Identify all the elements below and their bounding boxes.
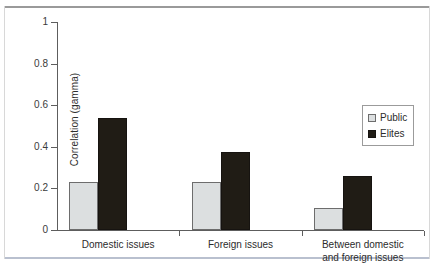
- bar-public: [314, 208, 343, 230]
- x-tick: [179, 231, 180, 236]
- y-tick-label: 1: [42, 15, 48, 28]
- page-frame-top-rule: [4, 6, 430, 8]
- bar-elites: [98, 118, 127, 230]
- legend-label-public: Public: [380, 112, 407, 123]
- elites-swatch-icon: [368, 130, 376, 138]
- legend-item-public[interactable]: Public: [368, 111, 409, 124]
- category-label-line: Between domestic: [302, 238, 424, 251]
- legend-item-elites[interactable]: Elites: [368, 127, 409, 140]
- y-tick: 0.2: [51, 188, 57, 189]
- category-label-line: Foreign issues: [179, 238, 301, 251]
- y-tick: 0.6: [51, 105, 57, 106]
- x-tick: [424, 231, 425, 236]
- category-label-line: and foreign issues: [302, 251, 424, 264]
- x-axis-line: [57, 230, 424, 231]
- bar-elites: [343, 176, 372, 230]
- chart-figure: Correlation (gamma) 00.20.40.60.81 Domes…: [0, 0, 434, 275]
- legend-label-elites: Elites: [380, 128, 404, 139]
- y-tick-label: 0.6: [34, 98, 48, 111]
- bar-public: [192, 182, 221, 230]
- y-tick: 0.4: [51, 147, 57, 148]
- y-tick-label: 0: [42, 223, 48, 236]
- page-frame-left-rule: [4, 6, 5, 259]
- category-label-line: Domestic issues: [57, 238, 179, 251]
- y-axis-title: Correlation (gamma): [69, 40, 80, 200]
- y-tick: 0: [51, 230, 57, 231]
- public-swatch-icon: [368, 114, 376, 122]
- y-tick: 0.8: [51, 64, 57, 65]
- category-label: Between domesticand foreign issues: [302, 238, 424, 264]
- page-frame-right-rule: [429, 6, 430, 259]
- y-tick-label: 0.4: [34, 140, 48, 153]
- bar-elites: [221, 152, 250, 230]
- category-label: Domestic issues: [57, 238, 179, 251]
- bar-public: [69, 182, 98, 230]
- y-tick-label: 0.8: [34, 57, 48, 70]
- y-tick-label: 0.2: [34, 181, 48, 194]
- x-tick: [302, 231, 303, 236]
- chart-legend: Public Elites: [362, 105, 414, 146]
- y-tick: 1: [51, 22, 57, 23]
- category-label: Foreign issues: [179, 238, 301, 251]
